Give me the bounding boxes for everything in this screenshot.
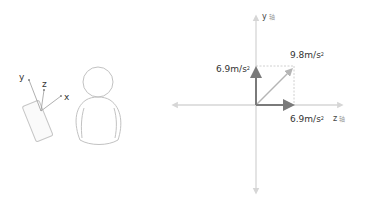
z-component-label: 6.9m/s2 [290, 114, 324, 124]
resultant-label: 9.8m/s2 [290, 50, 324, 60]
resultant-vector [256, 70, 291, 105]
y-axis-glyph: 轴 [269, 13, 275, 20]
z-axis-label: z轴 [333, 114, 345, 123]
y-component-label: 6.9m/s2 [216, 64, 250, 74]
y-axis-label: y轴 [262, 12, 275, 21]
z-axis-glyph: 轴 [339, 115, 345, 122]
acceleration-diagram: y x z y轴 z轴 [0, 0, 367, 211]
vector-plot [0, 0, 367, 211]
